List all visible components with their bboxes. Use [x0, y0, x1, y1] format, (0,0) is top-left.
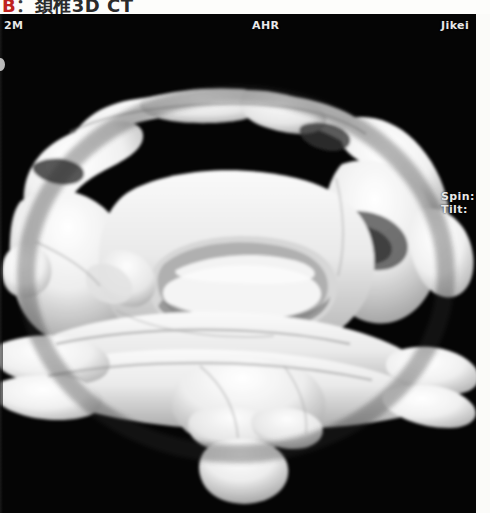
figure-caption-separator: ： [16, 0, 35, 14]
overlay-vendor-label: Jikei [441, 19, 469, 32]
cervical-spine-3d-render [0, 14, 476, 513]
figure-caption-title: 頚椎3D CT [35, 0, 134, 14]
figure-caption: B：頚椎3D CT [0, 0, 490, 14]
overlay-institution-label: AHR [252, 19, 279, 32]
page-margin [476, 14, 490, 513]
overlay-series-id: 2M [4, 19, 23, 32]
ct-image-viewport[interactable]: 2M AHR Jikei Spin: Tilt: [0, 14, 476, 513]
overlay-tilt-label: Tilt: [441, 203, 468, 216]
figure-caption-text: B：頚椎3D CT [2, 0, 133, 14]
scan-gutter [0, 14, 3, 513]
figure-panel-letter: B [2, 0, 16, 14]
overlay-spin-label: Spin: [441, 190, 475, 203]
